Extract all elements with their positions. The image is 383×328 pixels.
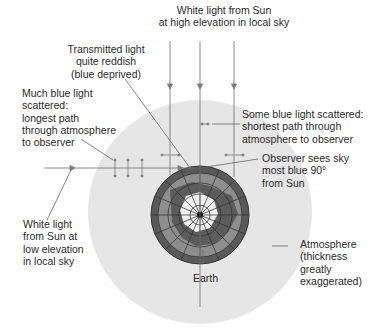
- label-line: (thickness: [300, 250, 362, 262]
- label-line: Observer sees sky: [262, 152, 349, 164]
- label-line: scattered:: [22, 99, 116, 111]
- label-line: Some blue light scattered:: [242, 108, 363, 120]
- label-line: Much blue light: [22, 87, 116, 99]
- label-line: Earth: [193, 272, 218, 284]
- label-line: Atmosphere: [300, 238, 362, 250]
- label-some-blue-scattered: Some blue light scattered: shortest path…: [242, 108, 363, 145]
- label-line: Transmitted light: [56, 43, 156, 55]
- label-much-blue-scattered: Much blue light scattered: longest path …: [22, 87, 116, 148]
- label-line: greatly: [300, 263, 362, 275]
- label-line: longest path: [22, 112, 116, 124]
- label-observer: Observer sees sky most blue 90° from Sun: [262, 152, 349, 189]
- label-line: quite reddish: [56, 55, 156, 67]
- label-line: low elevation: [23, 243, 84, 255]
- label-line: most blue 90°: [262, 164, 349, 176]
- label-atmosphere: Atmosphere (thickness greatly exaggerate…: [300, 238, 362, 287]
- label-line: from Sun at: [23, 230, 84, 242]
- label-line: White light: [23, 218, 84, 230]
- label-line: at high elevation in local sky: [144, 16, 304, 28]
- label-line: from Sun: [262, 177, 349, 189]
- label-sun-low: White light from Sun at low elevation in…: [23, 218, 84, 267]
- label-line: in local sky: [23, 255, 84, 267]
- label-line: (blue deprived): [56, 68, 156, 80]
- label-line: to observer: [22, 136, 116, 148]
- label-line: through atmosphere: [22, 124, 116, 136]
- label-sun-high: White light from Sun at high elevation i…: [144, 4, 304, 29]
- label-transmitted-light: Transmitted light quite reddish (blue de…: [56, 43, 156, 80]
- scattering-diagram: White light from Sun at high elevation i…: [0, 0, 383, 328]
- label-line: atmosphere to observer: [242, 133, 363, 145]
- label-earth: Earth: [193, 272, 218, 284]
- label-line: White light from Sun: [144, 4, 304, 16]
- label-line: shortest path through: [242, 120, 363, 132]
- label-line: exaggerated): [300, 275, 362, 287]
